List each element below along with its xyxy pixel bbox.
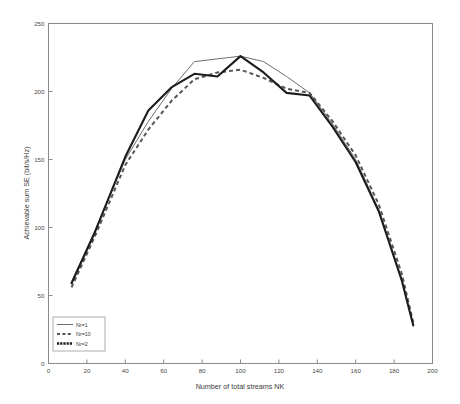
- plot-frame: [49, 24, 433, 364]
- legend-label-1: Nr=1: [76, 322, 88, 328]
- x-axis-title: Number of total streams NK: [196, 382, 285, 391]
- y-tick-label: 250: [34, 20, 45, 27]
- x-tick-label: 140: [312, 367, 323, 374]
- figure-container: 050100150200250 020406080100120140160180…: [0, 0, 460, 404]
- x-tick-label: 0: [47, 367, 51, 374]
- x-tick-label: 200: [427, 367, 438, 374]
- x-axis-ticks: 020406080100120140160180200: [47, 360, 438, 374]
- series-line-3: [72, 56, 414, 325]
- line-chart: 050100150200250 020406080100120140160180…: [0, 0, 460, 404]
- series-line-2: [72, 70, 414, 323]
- series-line-1: [72, 56, 414, 325]
- x-tick-label: 100: [235, 367, 246, 374]
- y-axis-title: Achievable sum SE (bit/s/Hz): [22, 146, 31, 239]
- legend-label-2: Nr=10: [76, 331, 91, 337]
- x-tick-label: 60: [160, 367, 167, 374]
- axes-frame: [49, 24, 433, 364]
- y-tick-label: 100: [34, 224, 45, 231]
- x-tick-label: 160: [351, 367, 362, 374]
- x-tick-label: 40: [122, 367, 129, 374]
- legend-label-3: Nr=2: [76, 341, 88, 347]
- x-tick-label: 180: [389, 367, 400, 374]
- y-tick-label: 0: [41, 360, 45, 367]
- x-tick-label: 20: [83, 367, 90, 374]
- data-series-group: [72, 56, 414, 325]
- x-tick-label: 80: [199, 367, 206, 374]
- legend[interactable]: Nr=1 Nr=10 Nr=2: [53, 317, 105, 351]
- y-tick-label: 50: [38, 292, 45, 299]
- y-axis-ticks: 050100150200250: [34, 20, 52, 367]
- x-tick-label: 120: [274, 367, 285, 374]
- y-tick-label: 150: [34, 156, 45, 163]
- y-tick-label: 200: [34, 88, 45, 95]
